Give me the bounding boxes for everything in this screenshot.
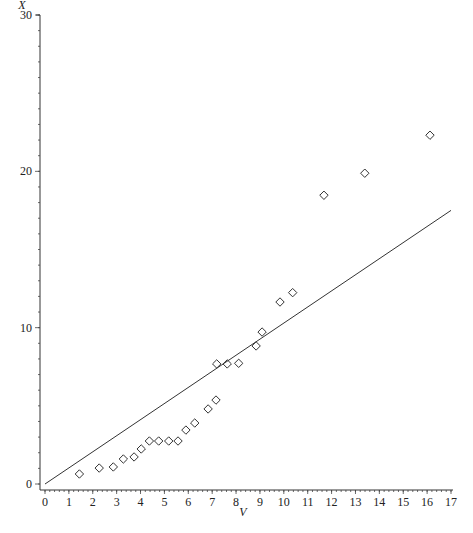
data-point-diamond	[320, 191, 328, 199]
x-tick-label: 10	[278, 495, 290, 509]
x-tick-label: 16	[421, 495, 433, 509]
data-point-diamond	[109, 463, 117, 471]
data-point-diamond	[154, 437, 162, 445]
x-tick-label: 5	[161, 495, 167, 509]
data-point-diamond	[288, 288, 296, 296]
data-points	[75, 131, 434, 478]
x-tick-label: 1	[66, 495, 72, 509]
y-tick-label: 0	[26, 477, 32, 491]
axes	[36, 15, 453, 490]
data-point-diamond	[165, 437, 173, 445]
data-point-diamond	[191, 419, 199, 427]
data-point-diamond	[174, 437, 182, 445]
x-tick-label: 14	[373, 495, 385, 509]
data-point-diamond	[119, 455, 127, 463]
data-point-diamond	[426, 131, 434, 139]
data-point-diamond	[234, 359, 242, 367]
data-point-diamond	[137, 445, 145, 453]
x-tick-label: 2	[90, 495, 96, 509]
x-tick-label: 0	[42, 495, 48, 509]
x-tick-label: 4	[138, 495, 144, 509]
scatter-chart: 012345678910111213141516170102030 V X	[0, 0, 473, 533]
axis-ticks: 012345678910111213141516170102030	[20, 8, 457, 509]
x-tick-label: 15	[397, 495, 409, 509]
x-tick-label: 8	[233, 495, 239, 509]
data-point-diamond	[212, 396, 220, 404]
y-tick-label: 10	[20, 321, 32, 335]
x-tick-label: 11	[302, 495, 314, 509]
x-tick-label: 6	[185, 495, 191, 509]
plot-area: 012345678910111213141516170102030 V X	[0, 0, 473, 533]
data-point-diamond	[95, 464, 103, 472]
data-point-diamond	[276, 298, 284, 306]
data-point-diamond	[252, 342, 260, 350]
x-tick-label: 13	[349, 495, 361, 509]
data-point-diamond	[361, 169, 369, 177]
data-point-diamond	[204, 405, 212, 413]
x-tick-label: 17	[445, 495, 457, 509]
data-point-diamond	[75, 470, 83, 478]
x-tick-label: 3	[114, 495, 120, 509]
data-point-diamond	[258, 328, 266, 336]
data-point-diamond	[182, 426, 190, 434]
x-tick-label: 7	[209, 495, 215, 509]
x-tick-label: 9	[257, 495, 263, 509]
data-point-diamond	[145, 437, 153, 445]
y-axis-label: X	[17, 0, 26, 12]
x-tick-label: 12	[326, 495, 338, 509]
reference-line	[45, 210, 451, 484]
data-point-diamond	[130, 453, 138, 461]
x-axis-label: V	[239, 505, 248, 519]
reference-line-path	[45, 210, 451, 484]
y-tick-label: 20	[20, 164, 32, 178]
